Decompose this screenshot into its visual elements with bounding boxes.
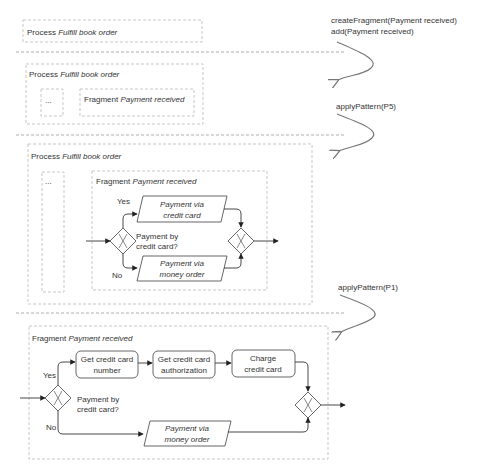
subprocess-label: Payment via [160, 200, 205, 209]
ellipsis-text: ... [45, 177, 52, 186]
task-label: number [93, 366, 120, 375]
gateway-label-line1: Payment by [77, 395, 119, 404]
task-label: Get credit card [81, 355, 133, 364]
pattern-application-diagram: createFragment(Payment received) add(Pay… [0, 0, 481, 474]
yes-flow [123, 214, 137, 228]
subprocess-label: credit card [163, 211, 201, 220]
yes-label: Yes [43, 371, 56, 380]
subprocess-label: money order [160, 270, 205, 279]
process-title: Process Fulfill book order [27, 28, 118, 37]
gateway-label-line1: Payment by [136, 232, 178, 241]
fragment-title: Fragment Payment received [96, 177, 197, 186]
no-flow [123, 254, 137, 268]
stage-4: Fragment Payment received Payment by cre… [20, 326, 345, 459]
ellipsis-text: ... [45, 96, 52, 105]
no-label: No [46, 423, 57, 432]
transition-arrow-3 [340, 295, 375, 332]
step-apply-pattern-p5: applyPattern(P5) [336, 102, 396, 111]
step-create-fragment: createFragment(Payment received) [331, 16, 457, 25]
transition-arrow-2 [337, 114, 374, 151]
fragment-title: Fragment Payment received [84, 95, 185, 104]
transition-arrow-1 [337, 42, 373, 80]
step-add-fragment: add(Payment received) [331, 27, 414, 36]
no-flow [58, 411, 143, 434]
subprocess-label: Payment via [165, 424, 210, 433]
stage-1: Process Fulfill book order [23, 20, 202, 42]
ellipsis-box [42, 172, 64, 292]
subprocess-label: Payment via [160, 259, 205, 268]
task-label: authorization [161, 366, 207, 375]
task-label: Get credit card [158, 355, 210, 364]
yes-label: Yes [117, 197, 130, 206]
no-label: No [112, 271, 123, 280]
process-title: Process Fulfill book order [29, 70, 120, 79]
step-apply-pattern-p1: applyPattern(P1) [338, 283, 398, 292]
gateway-label-line2: credit card? [136, 242, 178, 251]
task-label: credit card [244, 365, 281, 374]
flow-to-join [224, 209, 241, 227]
gateway-label-line2: credit card? [77, 405, 119, 414]
stage-2: Process Fulfill book order ... Fragment … [26, 64, 203, 124]
task-label: Charge [250, 354, 277, 363]
flow-to-join [295, 362, 308, 391]
process-title: Process Fulfill book order [31, 152, 122, 161]
yes-flow [58, 362, 75, 385]
stage-3: Process Fulfill book order ... Fragment … [28, 144, 312, 304]
flow-to-join [228, 418, 308, 432]
subprocess-label: money order [165, 435, 210, 444]
fragment-title: Fragment Payment received [32, 334, 133, 343]
